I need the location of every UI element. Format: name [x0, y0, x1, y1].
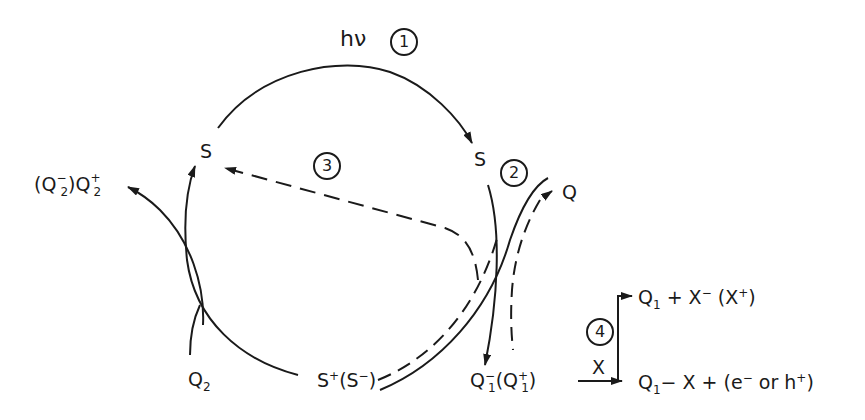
- step-4-marker: 4: [586, 318, 614, 346]
- q-dashed-arc: [378, 235, 498, 380]
- quencher-q: Q: [562, 183, 577, 202]
- branch-vertical: [618, 296, 632, 381]
- q2-line: [190, 305, 200, 355]
- s-excited-state: S: [474, 150, 486, 169]
- product-top: Q1 + X− (X+): [638, 287, 756, 311]
- electron-transfer-arc: [485, 185, 497, 365]
- s-ion-label: S+(S−): [317, 370, 376, 390]
- diagram-canvas: [0, 0, 865, 420]
- photon-label: hν: [340, 28, 366, 50]
- excitation-arc: [218, 65, 472, 143]
- back-reaction-dashed: [225, 168, 478, 280]
- reagent-x: X: [592, 358, 605, 377]
- q-dashed-arrow: [511, 200, 540, 350]
- q1-ion-label: Q−1(Q+1): [470, 370, 536, 394]
- step-2-marker: 2: [500, 159, 528, 187]
- q2-label: Q2: [188, 370, 211, 393]
- step-1-marker: 1: [390, 28, 418, 56]
- return-arc: [185, 166, 298, 375]
- step-3-marker: 3: [313, 152, 341, 180]
- q2-reduction-arc: [128, 187, 203, 325]
- s-ground-state: S: [200, 142, 212, 161]
- q2-product: (Q−2)Q+2: [34, 175, 101, 198]
- product-bottom: Q1− X + (e− or h+): [638, 372, 814, 396]
- q-transfer-arc: [380, 178, 548, 390]
